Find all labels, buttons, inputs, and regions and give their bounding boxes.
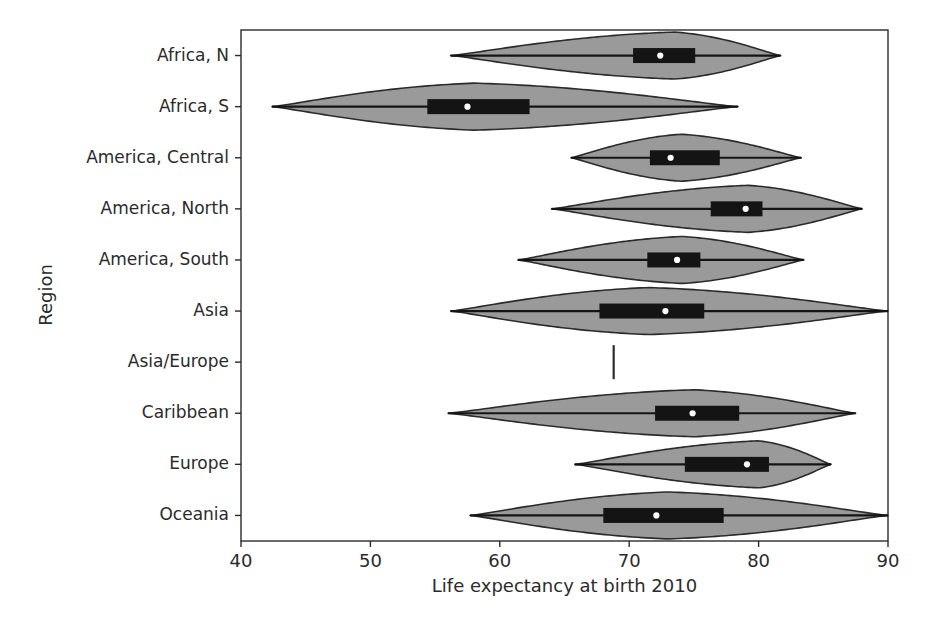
violin-median-marker	[674, 257, 680, 263]
violin-median-marker	[653, 512, 659, 518]
x-tick-label-80: 80	[747, 550, 770, 571]
x-tick-label-50: 50	[359, 550, 382, 571]
violin-median-marker	[657, 52, 663, 58]
violin-iqr-box	[647, 252, 700, 267]
y-tick-label-caribbean: Caribbean	[142, 402, 229, 422]
violin-caribbean	[448, 390, 856, 437]
violin-asia	[451, 288, 888, 335]
violin-series-group	[272, 32, 888, 539]
x-tick-label-90: 90	[877, 550, 900, 571]
violin-america-central	[571, 134, 801, 181]
violin-europe	[575, 441, 831, 488]
x-tick-label-60: 60	[488, 550, 511, 571]
y-tick-label-asia: Asia	[193, 300, 229, 320]
violin-median-marker	[668, 155, 674, 161]
violin-iqr-box	[427, 99, 529, 114]
violin-iqr-box	[633, 48, 695, 63]
y-tick-label-oceania: Oceania	[159, 504, 229, 524]
x-tick-label-40: 40	[230, 550, 253, 571]
violin-iqr-box	[650, 150, 720, 165]
y-tick-label-america-north: America, North	[101, 198, 229, 218]
violin-africa-s	[272, 83, 738, 130]
x-tick-label-70: 70	[618, 550, 641, 571]
violin-median-marker	[662, 308, 668, 314]
x-axis-title: Life expectancy at birth 2010	[432, 575, 697, 596]
y-tick-label-asia-europe: Asia/Europe	[128, 351, 229, 371]
violin-plot-figure: Africa, NAfrica, SAmerica, CentralAmeric…	[0, 0, 941, 619]
y-tick-label-europe: Europe	[169, 453, 229, 473]
violin-median-marker	[743, 206, 749, 212]
y-axis-title: Region	[35, 264, 56, 326]
y-tick-label-america-central: America, Central	[86, 147, 229, 167]
y-tick-label-africa-s: Africa, S	[159, 96, 229, 116]
violin-iqr-box	[655, 406, 739, 421]
y-tick-label-america-south: America, South	[99, 249, 229, 269]
x-axis-tick-labels: 405060708090	[230, 550, 900, 571]
violin-america-north	[552, 185, 863, 232]
chart-canvas: Africa, NAfrica, SAmerica, CentralAmeric…	[0, 0, 941, 619]
x-axis-ticks	[241, 541, 888, 547]
violin-iqr-box	[599, 304, 704, 319]
violin-america-south	[518, 237, 804, 284]
violin-iqr-box	[711, 201, 763, 216]
violin-median-marker	[464, 104, 470, 110]
y-tick-label-africa-n: Africa, N	[157, 45, 229, 65]
violin-africa-n	[451, 32, 781, 79]
y-axis-ticks	[235, 56, 241, 516]
violin-median-marker	[690, 410, 696, 416]
violin-iqr-box	[603, 508, 723, 523]
violin-iqr-box	[685, 457, 769, 472]
violin-median-marker	[744, 461, 750, 467]
violin-oceania	[470, 492, 888, 539]
y-axis-tick-labels: Africa, NAfrica, SAmerica, CentralAmeric…	[86, 45, 229, 525]
